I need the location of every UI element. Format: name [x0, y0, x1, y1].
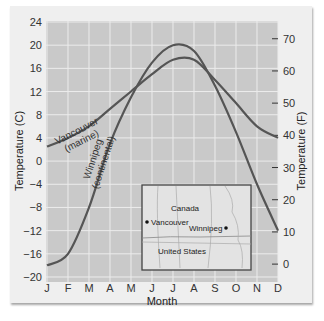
vancouver-marker	[145, 220, 149, 224]
x-tick-label: A	[190, 282, 198, 294]
y-tick-label: 0	[36, 155, 42, 167]
x-tick-label: F	[65, 282, 72, 294]
x-tick-label: M	[126, 282, 135, 294]
y-axis-right-title: Temperature (F)	[295, 112, 307, 191]
x-tick-label: J	[44, 282, 50, 294]
map-label-vancouver: Vancouver	[151, 218, 189, 227]
map-label-canada: Canada	[171, 204, 200, 213]
x-tick-label: S	[211, 282, 218, 294]
y-tick-label: −4	[29, 178, 42, 190]
y-tick-label: 24	[30, 16, 42, 28]
map-label-winnipeg: Winnipeg	[189, 224, 222, 233]
y-right-tick-label: 60	[283, 65, 295, 77]
x-tick-label: D	[274, 282, 282, 294]
y-right-tick-label: 0	[283, 258, 289, 270]
winnipeg-marker	[224, 226, 228, 230]
y-tick-label: 16	[30, 62, 42, 74]
y-axis-left-ticks: 24201612840−4−8−12−16−20	[23, 16, 42, 283]
y-tick-label: −12	[23, 225, 42, 237]
x-axis-ticks: JFMAMJJASOND	[44, 282, 282, 294]
x-tick-label: M	[84, 282, 93, 294]
map-label-united-states: United States	[158, 247, 206, 256]
temperature-chart: 24201612840−4−8−12−16−20 706050403020100…	[0, 0, 324, 321]
x-tick-label: J	[149, 282, 155, 294]
x-tick-label: A	[106, 282, 114, 294]
y-tick-label: 8	[36, 109, 42, 121]
y-right-tick-label: 30	[283, 162, 295, 174]
y-axis-left-title: Temperature (C)	[13, 111, 25, 191]
inset-map: Canada Vancouver Winnipeg United States	[142, 185, 251, 270]
y-tick-label: −20	[23, 271, 42, 283]
x-tick-label: O	[232, 282, 241, 294]
y-tick-label: −8	[29, 201, 42, 213]
y-right-tick-label: 40	[283, 129, 295, 141]
y-right-tick-label: 70	[283, 33, 295, 45]
x-axis-title: Month	[147, 295, 178, 307]
y-tick-label: −16	[23, 248, 42, 260]
y-right-tick-label: 10	[283, 226, 295, 238]
x-tick-label: N	[253, 282, 261, 294]
x-tick-label: J	[170, 282, 176, 294]
y-right-tick-label: 20	[283, 194, 295, 206]
y-right-tick-label: 50	[283, 97, 295, 109]
y-tick-label: 12	[30, 86, 42, 98]
y-tick-label: 4	[36, 132, 42, 144]
y-tick-label: 20	[30, 39, 42, 51]
